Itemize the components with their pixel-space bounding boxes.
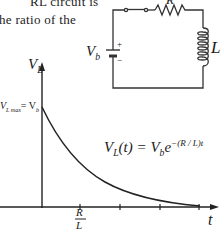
y-axis-label-text: V xyxy=(28,56,37,72)
x-axis-label-text: t xyxy=(208,211,212,228)
wire-top-right xyxy=(188,10,203,28)
x-axis-label: t xyxy=(208,211,212,229)
equation-lhs: V xyxy=(104,139,113,155)
source-label: Vb xyxy=(86,43,100,62)
tick-num-text: R xyxy=(76,206,83,218)
x-axis-arrow-icon xyxy=(210,204,219,210)
equation-exponent: −(R / L)t xyxy=(171,138,203,148)
resistor-label-text: R xyxy=(166,0,174,7)
inductor-label-text: L xyxy=(211,38,220,57)
source-label-text: V xyxy=(86,43,95,59)
tick-den-text: L xyxy=(76,219,82,231)
inductor-icon xyxy=(198,28,209,66)
wire-bottom xyxy=(113,60,203,88)
tick-label-numerator: R xyxy=(76,206,83,218)
source-label-sub: b xyxy=(95,51,100,62)
vmax-eq-text: = V xyxy=(21,100,36,111)
plus-text: + xyxy=(117,39,122,49)
resistor-label: R xyxy=(166,0,174,8)
diagram-canvas xyxy=(0,0,224,231)
battery-minus-sign: − xyxy=(117,55,122,65)
equation: VL(t) = Vbe−(R / L)t xyxy=(104,138,203,158)
inductor-label: L xyxy=(211,38,220,58)
battery-plus-sign: + xyxy=(117,39,122,49)
y-axis-label: VL xyxy=(28,56,43,75)
minus-text: − xyxy=(117,55,122,65)
vmax-eq-sub: b xyxy=(36,107,39,113)
tick-label-denominator: L xyxy=(76,219,82,231)
vmax-label: VL max= Vb xyxy=(0,100,39,113)
y-axis-label-sub: L xyxy=(37,64,42,75)
vmax-label-sub: L max xyxy=(6,107,21,113)
equation-arg: (t) = V xyxy=(119,139,160,155)
